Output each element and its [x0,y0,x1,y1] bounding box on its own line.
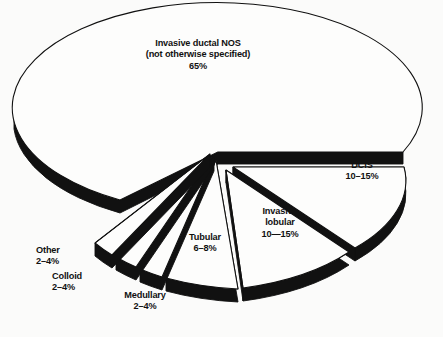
figure-canvas: Invasive ductal NOS (not otherwise speci… [0,0,443,337]
label-invasive-lobular-line2: lobular [238,217,322,228]
label-colloid: Colloid 2–4% [52,271,122,294]
label-invasive-ductal-nos-line1: Invasive ductal NOS [113,38,283,49]
label-invasive-lobular-line1: Invasive [238,206,322,217]
label-other-line1: Other [36,245,106,256]
label-other: Other 2–4% [36,245,106,268]
label-invasive-ductal-nos: Invasive ductal NOS (not otherwise speci… [113,38,283,72]
label-tubular: Tubular 6–8% [168,232,242,255]
label-dcis-line1: DCIS [318,160,406,171]
label-colloid-line1: Colloid [52,271,122,282]
label-colloid-value: 2–4% [52,282,122,293]
label-tubular-line1: Tubular [168,232,242,243]
label-invasive-lobular-value: 10—15% [238,229,322,240]
label-invasive-ductal-nos-value: 65% [113,61,283,72]
label-medullary-value: 2–4% [104,301,186,312]
label-dcis-value: 10–15% [318,171,406,182]
label-invasive-lobular: Invasive lobular 10—15% [238,206,322,240]
label-dcis: DCIS 10–15% [318,160,406,183]
label-invasive-ductal-nos-line2: (not otherwise specified) [113,49,283,60]
label-tubular-value: 6–8% [168,243,242,254]
label-other-value: 2–4% [36,256,106,267]
